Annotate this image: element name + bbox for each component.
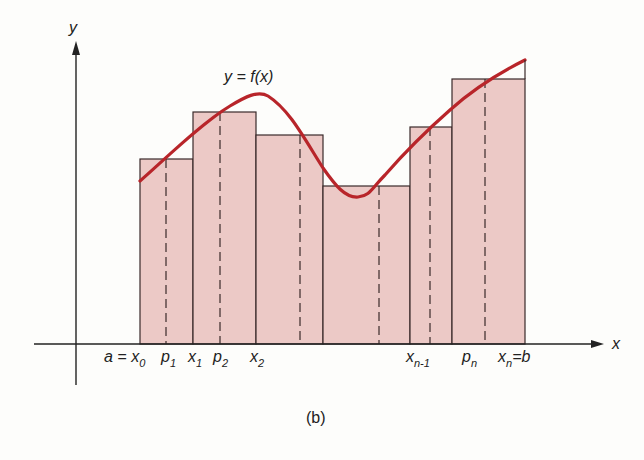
tick-label: x2 [249, 348, 264, 369]
tick-label: pn [461, 348, 477, 369]
curve-label: y = f(x) [223, 68, 273, 85]
tick-label: xn-1 [405, 348, 430, 369]
riemann-rectangle [256, 135, 323, 344]
riemann-rectangle [410, 127, 452, 344]
tick-label: x1 [187, 348, 202, 369]
tick-labels: a = x0p1x1p2x2xn-1pnxn=b [104, 348, 530, 369]
x-axis-label: x [611, 335, 621, 352]
tick-label: p2 [212, 348, 228, 369]
y-axis-label: y [68, 19, 78, 36]
riemann-rectangle [452, 79, 525, 344]
riemann-rectangle [193, 112, 256, 344]
tick-label: xn=b [497, 348, 530, 369]
riemann-sum-diagram: x y y = f(x) a = x0p1x1p2x2xn-1pnxn=b (b… [0, 0, 644, 460]
riemann-rectangles [140, 79, 525, 344]
x-axis-arrow-icon [591, 340, 604, 348]
tick-label: a = x0 [104, 348, 146, 369]
y-axis-arrow-icon [72, 41, 80, 55]
riemann-rectangle [323, 186, 410, 344]
tick-label: p1 [160, 348, 176, 369]
figure-caption: (b) [306, 409, 326, 426]
